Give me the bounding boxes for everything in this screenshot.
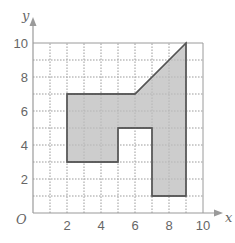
x-axis-label: x [225, 210, 233, 225]
x-tick-label: 10 [196, 218, 210, 233]
x-tick-label: 8 [165, 218, 172, 233]
coordinate-grid-diagram: 246810246810 x y O [0, 0, 235, 243]
x-axis-arrow-icon [214, 210, 223, 217]
origin-label: O [16, 212, 27, 227]
y-axis-label: y [21, 8, 30, 23]
y-tick-label: 8 [21, 70, 28, 85]
x-tick-label: 2 [63, 218, 70, 233]
y-tick-label: 2 [21, 172, 28, 187]
y-tick-label: 10 [14, 36, 28, 51]
x-tick-label: 6 [131, 218, 138, 233]
y-axis-arrow-icon [30, 17, 37, 26]
x-tick-label: 4 [97, 218, 104, 233]
y-tick-label: 6 [21, 104, 28, 119]
y-tick-label: 4 [21, 138, 28, 153]
shaded-polygon [67, 43, 186, 196]
